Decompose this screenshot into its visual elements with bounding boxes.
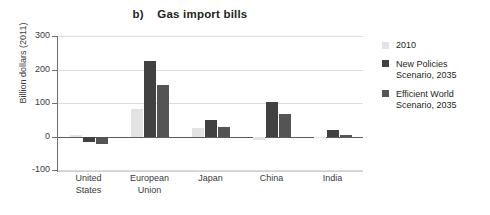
y-tick-label-300: 300 <box>10 30 50 40</box>
bar <box>83 137 95 142</box>
bar <box>131 109 143 137</box>
x-axis-label-china: China <box>241 173 302 185</box>
bar <box>144 61 156 137</box>
x-axis-label-european-union: European Union <box>119 173 180 196</box>
legend-swatch-icon <box>382 90 389 97</box>
legend-label: 2010 <box>396 40 416 50</box>
legend-label: New Policies Scenario, 2035 <box>396 59 457 81</box>
bar <box>192 128 204 137</box>
bar <box>266 102 278 137</box>
legend-label: Efficient World Scenario, 2035 <box>396 89 457 111</box>
bar <box>327 130 339 137</box>
axis-bottom-line <box>58 171 363 172</box>
y-tick-label--100: -100 <box>10 164 50 174</box>
x-axis-label-india: India <box>302 173 363 185</box>
legend-item[interactable]: Efficient World Scenario, 2035 <box>382 89 490 112</box>
y-tick-label-100: 100 <box>10 97 50 107</box>
legend-swatch-icon <box>382 60 389 67</box>
y-tick-label-0: 0 <box>10 131 50 141</box>
legend-item[interactable]: New Policies Scenario, 2035 <box>382 59 490 82</box>
bar <box>157 85 169 137</box>
y-tick-label-200: 200 <box>10 64 50 74</box>
chart-legend: 2010New Policies Scenario, 2035Efficient… <box>382 40 490 119</box>
x-axis-label-japan: Japan <box>180 173 241 185</box>
bar <box>218 127 230 137</box>
bar <box>279 114 291 137</box>
plot-area-positive <box>58 36 363 137</box>
x-axis-labels: United StatesEuropean UnionJapanChinaInd… <box>58 173 363 207</box>
x-axis-label-united-states: United States <box>58 173 119 196</box>
gas-import-bills-chart: b) Gas import bills Billion dollars (201… <box>0 0 490 215</box>
y-tick-0 <box>52 137 57 138</box>
bar <box>96 137 108 144</box>
bar <box>314 137 326 138</box>
legend-item[interactable]: 2010 <box>382 40 490 52</box>
chart-title: b) Gas import bills <box>0 8 380 20</box>
y-tick-200 <box>52 70 57 71</box>
bar <box>253 137 265 140</box>
y-tick-100 <box>52 103 57 104</box>
legend-swatch-icon <box>382 42 389 49</box>
bar <box>205 120 217 137</box>
y-tick--100 <box>52 170 57 171</box>
y-tick-300 <box>52 36 57 37</box>
plot-area-negative <box>58 137 363 171</box>
